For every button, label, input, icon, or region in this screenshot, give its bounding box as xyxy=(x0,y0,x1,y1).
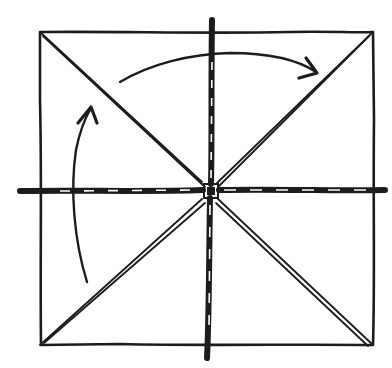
diagonal-top-left xyxy=(40,32,205,187)
top-arrow-icon xyxy=(120,53,317,82)
fold-diagram xyxy=(0,0,392,368)
diagonal-bottom-left xyxy=(40,199,205,345)
diagonal-top-right xyxy=(217,32,373,187)
cross-lines xyxy=(20,20,385,358)
left-arrow-icon xyxy=(73,107,97,282)
diagram-canvas xyxy=(0,0,392,368)
rotation-arrows xyxy=(73,53,317,282)
horizontal-crease xyxy=(20,190,385,191)
diagonal-bottom-right xyxy=(216,199,373,346)
